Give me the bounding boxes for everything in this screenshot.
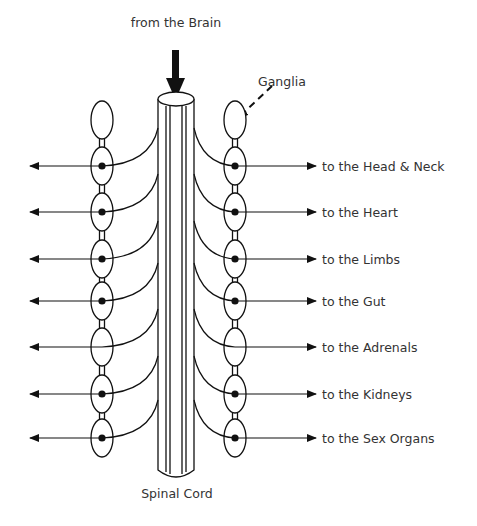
synapse-dot-icon — [231, 255, 238, 262]
synapse-dot-icon — [98, 434, 105, 441]
synapse-dot-icon — [98, 297, 105, 304]
nerve-row: to the Kidneys — [30, 356, 412, 402]
right-chain — [224, 101, 246, 457]
synapse-dot-icon — [231, 297, 238, 304]
synapse-dot-icon — [231, 162, 238, 169]
target-organ-label: to the Adrenals — [322, 340, 417, 355]
nerve-row: to the Limbs — [30, 221, 400, 267]
synapse-dot-icon — [98, 255, 105, 262]
from-brain-label: from the Brain — [131, 15, 221, 30]
target-organ-label: to the Head & Neck — [322, 159, 445, 174]
target-organ-label: to the Gut — [322, 294, 386, 309]
synapse-dot-icon — [98, 162, 105, 169]
target-organ-label: to the Sex Organs — [322, 431, 435, 446]
ganglia-label: Ganglia — [258, 74, 306, 89]
synapse-dot-icon — [98, 208, 105, 215]
synapse-dot-icon — [231, 208, 238, 215]
target-organ-label: to the Limbs — [322, 252, 400, 267]
synapse-dot-icon — [231, 434, 238, 441]
nerve-row: to the Gut — [30, 263, 386, 309]
ganglion — [224, 101, 246, 139]
spinal-cord-label: Spinal Cord — [141, 486, 213, 501]
spinal-cord — [158, 92, 194, 477]
target-organ-label: to the Heart — [322, 205, 398, 220]
sympathetic-chain-diagram: from the Brain Ganglia Spinal Cord to th… — [0, 0, 477, 526]
synapse-dot-icon — [231, 390, 238, 397]
ganglion — [91, 101, 113, 139]
synapse-dot-icon — [98, 390, 105, 397]
left-chain — [91, 101, 113, 457]
target-organ-label: to the Kidneys — [322, 387, 412, 402]
nerve-row: to the Heart — [30, 174, 398, 220]
